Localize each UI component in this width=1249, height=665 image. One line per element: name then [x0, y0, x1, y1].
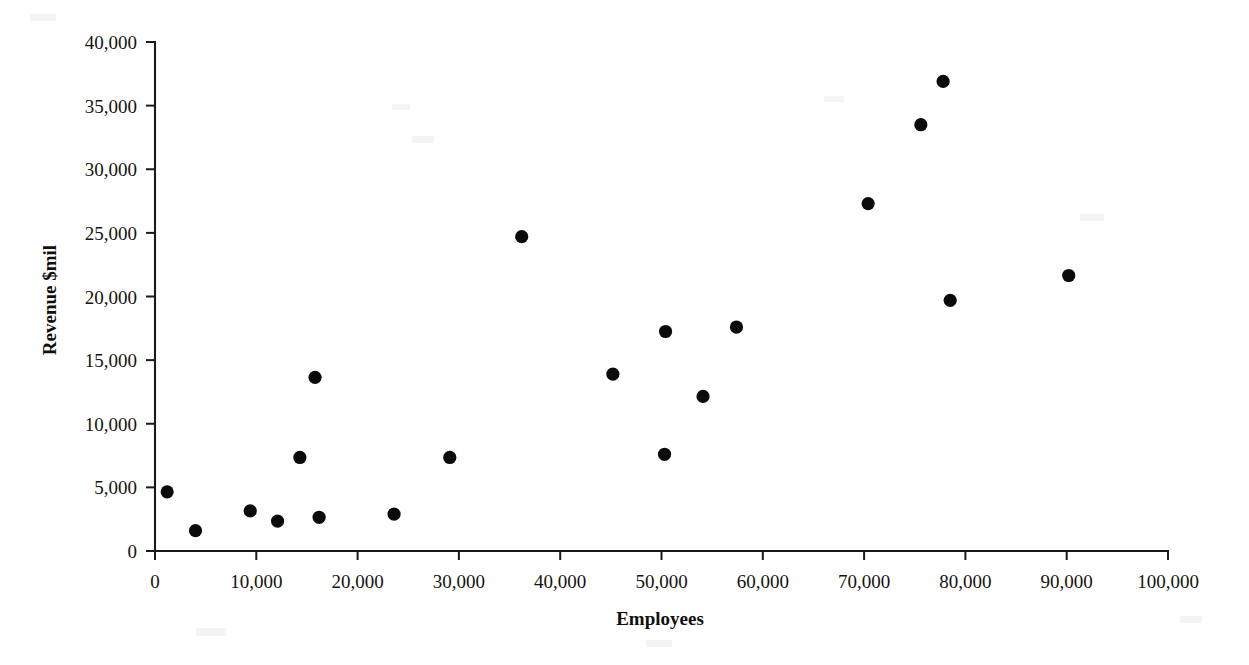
data-point: [606, 368, 619, 381]
x-tick-label: 10,000: [230, 571, 282, 592]
data-point: [658, 448, 671, 461]
x-tick-labels: 010,00020,00030,00040,00050,00060,00070,…: [150, 571, 1199, 592]
data-points-layer: [161, 75, 1076, 537]
x-tick-label: 60,000: [737, 571, 789, 592]
data-point: [443, 451, 456, 464]
data-point: [515, 230, 528, 243]
y-tick-label: 10,000: [85, 414, 137, 435]
chart-canvas: 05,00010,00015,00020,00025,00030,00035,0…: [0, 0, 1249, 665]
y-tick-label: 30,000: [85, 159, 137, 180]
y-tick-label: 15,000: [85, 350, 137, 371]
data-point: [937, 75, 950, 88]
data-point: [244, 504, 257, 517]
x-tick-label: 50,000: [635, 571, 687, 592]
y-tick-label: 20,000: [85, 287, 137, 308]
y-tick-labels: 05,00010,00015,00020,00025,00030,00035,0…: [85, 32, 137, 562]
data-point: [189, 524, 202, 537]
plot-axes: [146, 42, 1168, 560]
y-tick-label: 5,000: [94, 477, 137, 498]
data-point: [161, 485, 174, 498]
y-tick-label: 35,000: [85, 96, 137, 117]
y-axis-title: Revenue $mil: [39, 245, 60, 355]
scatter-chart-figure: 05,00010,00015,00020,00025,00030,00035,0…: [0, 0, 1249, 665]
x-tick-label: 80,000: [939, 571, 991, 592]
y-tick-label: 25,000: [85, 223, 137, 244]
data-point: [293, 451, 306, 464]
data-point: [387, 507, 400, 520]
y-tick-label: 40,000: [85, 32, 137, 53]
x-tick-label: 40,000: [534, 571, 586, 592]
data-point: [696, 390, 709, 403]
data-point: [914, 118, 927, 131]
data-point: [308, 371, 321, 384]
data-point: [313, 511, 326, 524]
data-point: [862, 197, 875, 210]
data-point: [730, 320, 743, 333]
data-point: [944, 294, 957, 307]
x-axis-ticks: [155, 551, 1168, 560]
data-point: [271, 514, 284, 527]
data-point: [1062, 269, 1075, 282]
x-axis-title: Employees: [616, 608, 704, 629]
x-tick-label: 30,000: [433, 571, 485, 592]
y-axis-ticks: [146, 42, 155, 551]
data-point: [659, 325, 672, 338]
x-tick-label: 20,000: [331, 571, 383, 592]
y-tick-label: 0: [128, 541, 138, 562]
x-tick-label: 100,000: [1137, 571, 1199, 592]
x-tick-label: 0: [150, 571, 160, 592]
x-tick-label: 90,000: [1041, 571, 1093, 592]
x-tick-label: 70,000: [838, 571, 890, 592]
